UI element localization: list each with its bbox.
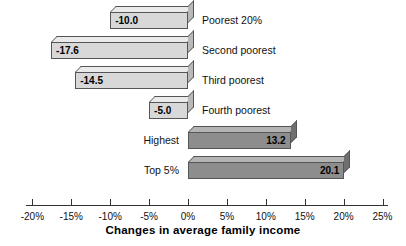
x-axis-tick [149,199,150,205]
bar-category-label: Fourth poorest [202,101,270,119]
x-axis-tick [188,199,189,205]
bar-category-label: Third poorest [202,71,264,89]
bar-side-face [188,90,194,113]
bar-chart: -10.0Poorest 20%-17.6Second poorest-14.5… [0,0,406,246]
bar-row: -10.0Poorest 20% [0,4,406,34]
bar-row: 20.1Top 5% [0,154,406,184]
x-axis-tick [383,199,384,205]
x-axis-tick [71,199,72,205]
bar-value-label: -17.6 [56,42,79,59]
x-axis-tick-label: 10% [246,211,286,222]
x-axis-tick-label: 20% [324,211,364,222]
bar-value-label: 13.2 [258,132,286,149]
bar-side-face [188,30,194,53]
x-axis-tick-label: 5% [207,211,247,222]
bar-row: 13.2Highest [0,124,406,154]
x-axis-tick-label: -5% [129,211,169,222]
x-axis-tick [305,199,306,205]
bar-row: -5.0Fourth poorest [0,94,406,124]
bar-row: -14.5Third poorest [0,64,406,94]
bar-side-face [291,120,297,143]
bar-category-label: Highest [0,131,179,149]
bar-row: -17.6Second poorest [0,34,406,64]
x-axis-tick [344,199,345,205]
bar-value-label: -10.0 [115,12,138,29]
x-axis-tick [266,199,267,205]
x-axis-tick-label: 25% [363,211,403,222]
x-axis: -20%-15%-10%-5%0%5%10%15%20%25% [26,205,388,206]
bar-category-label: Second poorest [202,41,276,59]
x-axis-tick-label: -20% [12,211,52,222]
x-axis-tick-label: 0% [168,211,208,222]
x-axis-tick-label: 15% [285,211,325,222]
bar-value-label: 20.1 [311,162,339,179]
x-axis-tick [227,199,228,205]
bar-side-face [344,150,350,173]
x-axis-tick [110,199,111,205]
bar-side-face [188,60,194,83]
x-axis-tick [32,199,33,205]
bar-side-face [188,0,194,23]
x-axis-tick-label: -15% [51,211,91,222]
bar-value-label: -5.0 [154,102,171,119]
x-axis-title: Changes in average family income [0,224,406,236]
bar-category-label: Top 5% [0,161,179,179]
bar-category-label: Poorest 20% [202,11,262,29]
x-axis-tick-label: -10% [90,211,130,222]
bar-value-label: -14.5 [80,72,103,89]
